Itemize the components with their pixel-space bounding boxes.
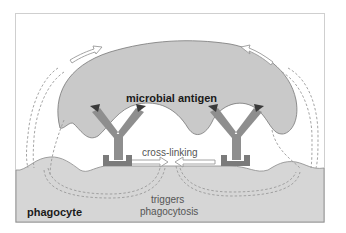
- crosslinking-label: cross-linking: [142, 148, 198, 158]
- antigen-label: microbial antigen: [126, 93, 217, 104]
- triggers-label-line2: phagocytosis: [140, 207, 198, 217]
- triggers-label-line1: triggers: [151, 195, 184, 205]
- phagocyte-label: phagocyte: [27, 207, 82, 218]
